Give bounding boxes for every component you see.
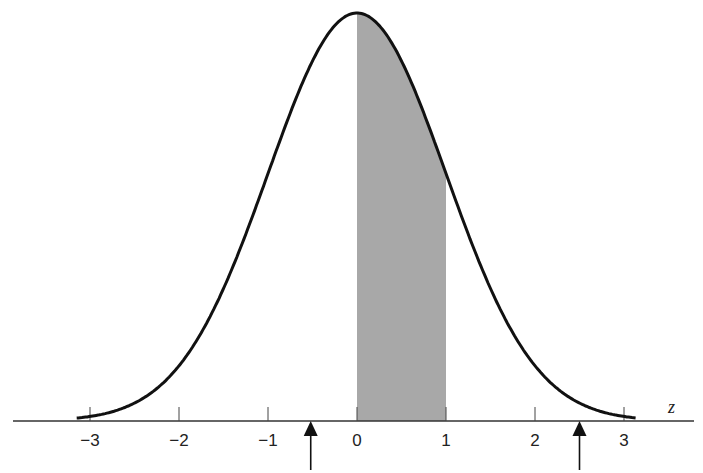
tick-label: 3 [619,431,628,450]
shaded-area-0-to-1 [357,13,446,421]
normal-density-curve [77,13,636,418]
tick-label: −1 [258,431,277,450]
arrow-up-icon [573,421,587,470]
arrow-up-icon [304,421,318,470]
axis-variable-label: z [667,397,675,417]
tick-label: −3 [80,431,99,450]
tick-label: −2 [169,431,188,450]
tick-label: 2 [530,431,539,450]
normal-curve-figure: −3−2−10123 z [0,0,703,473]
tick-label: 0 [352,431,361,450]
tick-label: 1 [441,431,450,450]
axis-ticks: −3−2−10123 [80,407,628,450]
